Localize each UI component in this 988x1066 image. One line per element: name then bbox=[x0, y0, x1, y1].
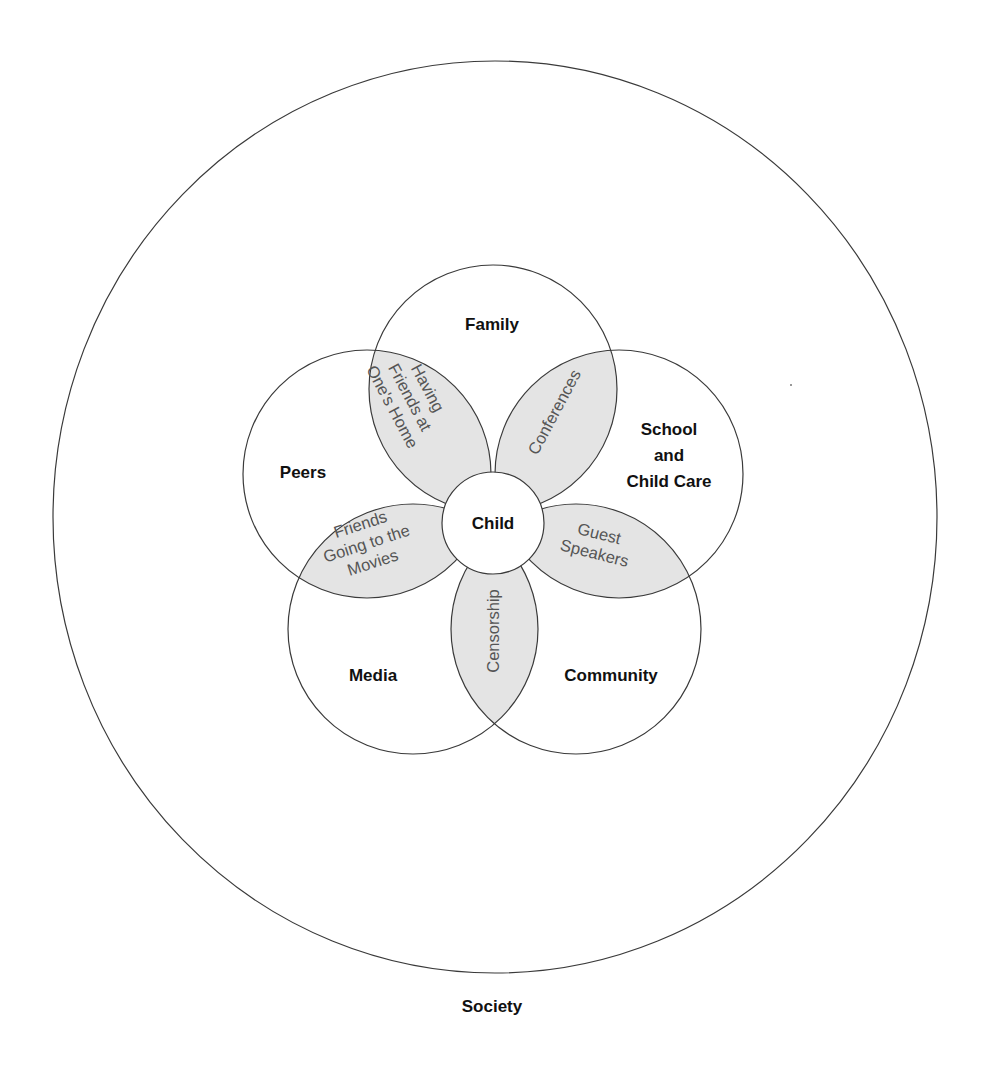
overlap-label-line: Censorship bbox=[484, 589, 502, 672]
ecological-systems-diagram: Child Family School and Child Care Commu… bbox=[0, 0, 988, 1066]
scan-speck bbox=[790, 384, 792, 386]
school-label-line-1: School bbox=[641, 420, 698, 439]
media-label: Media bbox=[349, 666, 398, 685]
community-label: Community bbox=[564, 666, 658, 685]
peers-label: Peers bbox=[280, 463, 326, 482]
school-label: School and Child Care bbox=[626, 420, 711, 491]
society-label: Society bbox=[462, 997, 523, 1016]
school-label-line-3: Child Care bbox=[626, 472, 711, 491]
child-label: Child bbox=[472, 514, 515, 533]
diagram-canvas: Child Family School and Child Care Commu… bbox=[0, 0, 988, 1066]
school-label-line-2: and bbox=[654, 446, 684, 465]
family-label: Family bbox=[465, 315, 519, 334]
overlap-label-community-media: Censorship bbox=[484, 589, 502, 672]
